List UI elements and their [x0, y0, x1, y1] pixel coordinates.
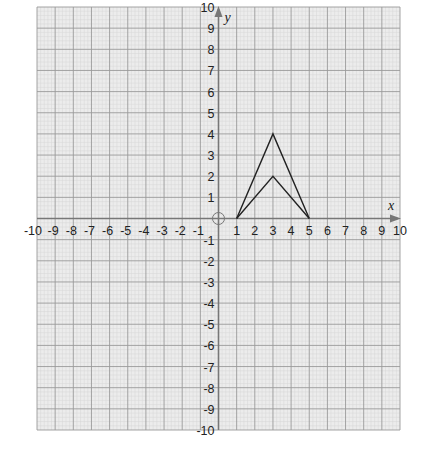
y-tick-label: 8 — [208, 43, 215, 57]
y-tick-label: -2 — [203, 255, 214, 269]
x-tick-label: 2 — [251, 224, 258, 238]
x-tick-label: -10 — [24, 224, 42, 238]
y-tick-label: -7 — [203, 361, 214, 375]
x-tick-label: 5 — [306, 224, 313, 238]
y-tick-label: -1 — [203, 234, 214, 248]
y-axis-label: y — [223, 10, 232, 25]
y-tick-label: -5 — [203, 318, 214, 332]
x-tick-label: -7 — [84, 224, 95, 238]
y-tick-label: 9 — [208, 22, 215, 36]
x-tick-label: 6 — [324, 224, 331, 238]
y-tick-label: 7 — [208, 64, 215, 78]
y-tick-label: -8 — [203, 382, 214, 396]
x-tick-label: -6 — [102, 224, 113, 238]
y-tick-label: -4 — [203, 297, 214, 311]
x-tick-label: 4 — [288, 224, 295, 238]
x-tick-label: 1 — [233, 224, 240, 238]
x-tick-label: -5 — [120, 224, 131, 238]
x-tick-label: -8 — [66, 224, 77, 238]
x-tick-label: -3 — [156, 224, 167, 238]
x-tick-label: 9 — [378, 224, 385, 238]
y-tick-label: 5 — [208, 107, 215, 121]
y-tick-label: 10 — [201, 1, 215, 15]
x-tick-label: -4 — [138, 224, 149, 238]
y-tick-label: -6 — [203, 339, 214, 353]
y-tick-label: 3 — [208, 149, 215, 163]
x-tick-label: -9 — [48, 224, 59, 238]
x-tick-label: -1 — [193, 224, 204, 238]
y-tick-label: 6 — [208, 86, 215, 100]
x-tick-label: 10 — [393, 224, 407, 238]
x-tick-label: 3 — [269, 224, 276, 238]
coordinate-plane: xy -10-9-8-7-6-5-4-3-2-11234567891010987… — [0, 0, 426, 455]
y-tick-label: -10 — [196, 424, 214, 438]
y-tick-label: 4 — [208, 128, 215, 142]
y-tick-label: -3 — [203, 276, 214, 290]
y-tick-label: -9 — [203, 403, 214, 417]
x-tick-label: 8 — [360, 224, 367, 238]
y-tick-label: 2 — [208, 170, 215, 184]
x-axis-label: x — [387, 198, 395, 213]
y-tick-label: 1 — [208, 191, 215, 205]
x-tick-label: -2 — [175, 224, 186, 238]
x-tick-label: 7 — [342, 224, 349, 238]
